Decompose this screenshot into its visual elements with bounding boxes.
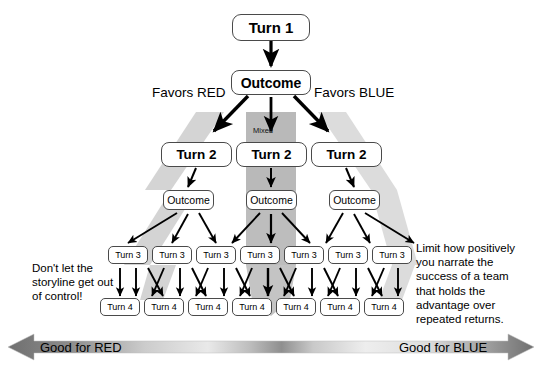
spectrum-label-red: Good for RED bbox=[40, 340, 122, 355]
node-outcome-2-left[interactable]: Outcome bbox=[163, 190, 214, 210]
node-outcome-2-right[interactable]: Outcome bbox=[329, 190, 380, 210]
node-turn-4-5[interactable]: Turn 4 bbox=[276, 298, 316, 316]
node-turn-2-right-label: Turn 2 bbox=[326, 147, 366, 162]
node-turn-3-4[interactable]: Turn 3 bbox=[240, 246, 280, 264]
storyline-branching-diagram: Turn 1 Outcome Favors RED Favors BLUE Mi… bbox=[0, 0, 542, 370]
node-turn-3-7[interactable]: Turn 3 bbox=[372, 246, 412, 264]
note-right: Limit how positively you narrate the suc… bbox=[416, 241, 540, 326]
node-turn-2-left-label: Turn 2 bbox=[176, 147, 216, 162]
node-turn-3-6-label: Turn 3 bbox=[335, 250, 361, 260]
node-turn-2-center-label: Turn 2 bbox=[251, 147, 291, 162]
node-turn-3-6[interactable]: Turn 3 bbox=[328, 246, 368, 264]
node-turn-4-7-label: Turn 4 bbox=[371, 302, 397, 312]
node-outcome-2-left-label: Outcome bbox=[167, 194, 210, 206]
arrow-turn2-to-outcome-right bbox=[346, 168, 354, 187]
node-turn-3-5[interactable]: Turn 3 bbox=[284, 246, 324, 264]
note-right-line-5: advantage over bbox=[416, 298, 540, 312]
node-turn-3-5-label: Turn 3 bbox=[291, 250, 317, 260]
node-turn-3-1-label: Turn 3 bbox=[115, 250, 141, 260]
note-right-line-1: Limit how positively bbox=[416, 241, 540, 255]
node-turn-4-2[interactable]: Turn 4 bbox=[144, 298, 184, 316]
label-mixed: Mixed bbox=[253, 126, 273, 135]
node-outcome-2-right-label: Outcome bbox=[333, 194, 376, 206]
label-favors-blue: Favors BLUE bbox=[314, 85, 394, 100]
node-turn-1[interactable]: Turn 1 bbox=[232, 14, 310, 41]
node-turn-4-2-label: Turn 4 bbox=[151, 302, 177, 312]
node-turn-2-center[interactable]: Turn 2 bbox=[236, 142, 307, 167]
node-turn-3-7-label: Turn 3 bbox=[379, 250, 405, 260]
node-turn-1-label: Turn 1 bbox=[249, 19, 294, 36]
note-left: Don't let the storyline get out of contr… bbox=[32, 261, 147, 304]
note-left-line-2: storyline get out bbox=[32, 275, 147, 289]
node-turn-4-5-label: Turn 4 bbox=[283, 302, 309, 312]
node-turn-3-4-label: Turn 3 bbox=[247, 250, 273, 260]
node-turn-3-2[interactable]: Turn 3 bbox=[152, 246, 192, 264]
note-left-line-3: of control! bbox=[32, 289, 147, 303]
node-turn-4-6[interactable]: Turn 4 bbox=[320, 298, 360, 316]
node-turn-4-7[interactable]: Turn 4 bbox=[364, 298, 404, 316]
node-outcome-2-center-label: Outcome bbox=[250, 194, 293, 206]
node-turn-3-2-label: Turn 3 bbox=[159, 250, 185, 260]
node-turn-4-3[interactable]: Turn 4 bbox=[188, 298, 228, 316]
node-outcome-2-center[interactable]: Outcome bbox=[246, 190, 297, 210]
arrow-turn2-to-outcome-left bbox=[188, 168, 196, 187]
node-turn-3-3[interactable]: Turn 3 bbox=[196, 246, 236, 264]
note-right-line-6: repeated returns. bbox=[416, 312, 540, 326]
note-right-line-2: you narrate the bbox=[416, 255, 540, 269]
node-turn-4-4[interactable]: Turn 4 bbox=[232, 298, 272, 316]
node-root-outcome[interactable]: Outcome bbox=[231, 70, 311, 95]
note-left-line-1: Don't let the bbox=[32, 261, 147, 275]
node-turn-4-4-label: Turn 4 bbox=[239, 302, 265, 312]
note-right-line-4: that holds the bbox=[416, 284, 540, 298]
node-turn-2-right[interactable]: Turn 2 bbox=[311, 142, 382, 167]
arrows-outcome2-center-to-turn3 bbox=[232, 213, 310, 243]
node-turn-2-left[interactable]: Turn 2 bbox=[161, 142, 232, 167]
node-turn-3-3-label: Turn 3 bbox=[203, 250, 229, 260]
label-favors-red: Favors RED bbox=[152, 85, 226, 100]
spectrum-label-blue: Good for BLUE bbox=[399, 340, 487, 355]
node-turn-4-6-label: Turn 4 bbox=[327, 302, 353, 312]
node-root-outcome-label: Outcome bbox=[241, 75, 302, 91]
node-turn-4-3-label: Turn 4 bbox=[195, 302, 221, 312]
note-right-line-3: success of a team bbox=[416, 269, 540, 283]
